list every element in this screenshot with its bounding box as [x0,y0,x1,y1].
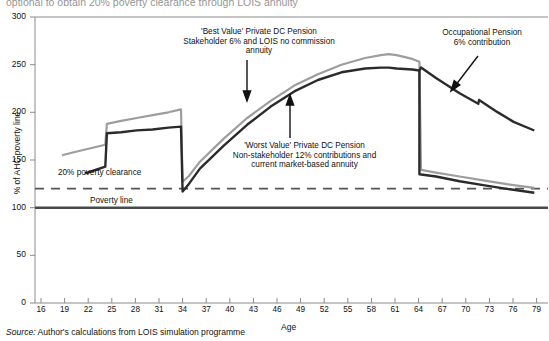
label-poverty-clearance: 20% poverty clearance [58,168,141,177]
annotation-arrow-occupational [451,56,478,91]
annotation-arrow-worst-value [286,95,293,138]
x-tick-label: 52 [314,305,334,314]
x-tick-label: 46 [267,305,287,314]
series-worst-value-retirement-branch [419,71,534,193]
x-tick-label: 16 [31,305,51,314]
x-tick-label: 70 [456,305,476,314]
x-tick-label: 79 [527,305,547,314]
annotation-best-value: 'Best Value' Private DC Pension Stakehol… [163,27,355,56]
x-tick-label: 73 [479,305,499,314]
x-tick-label: 61 [385,305,405,314]
x-tick-label: 40 [220,305,240,314]
x-tick-label: 28 [125,305,145,314]
x-tick-marks [41,298,537,303]
x-tick-label: 22 [78,305,98,314]
x-tick-label: 49 [291,305,311,314]
source-body: Author's calculations from LOIS simulati… [36,327,245,337]
x-axis-title: Age [281,322,296,332]
source-label: Source: [6,327,36,337]
source-note: Source: Author's calculations from LOIS … [6,327,245,337]
y-tick-label: 200 [0,106,26,116]
y-tick-label: 0 [0,297,26,307]
y-tick-label: 100 [0,202,26,212]
annotation-arrow-best-value [243,60,250,101]
label-poverty-line: Poverty line [90,196,133,205]
series-worst-value-line [85,68,534,192]
x-tick-label: 25 [102,305,122,314]
annotation-occupational-pension: Occupational Pension 6% contribution [420,28,544,47]
annotation-worst-value: 'Worst Value' Private DC Pension Non-sta… [212,141,397,170]
y-tick-marks [30,17,35,303]
x-tick-label: 43 [243,305,263,314]
x-tick-label: 58 [361,305,381,314]
x-tick-label: 67 [432,305,452,314]
x-tick-label: 19 [55,305,75,314]
y-tick-label: 50 [0,249,26,259]
y-tick-label: 300 [0,11,26,21]
x-tick-label: 34 [173,305,193,314]
x-tick-label: 31 [149,305,169,314]
x-tick-label: 64 [409,305,429,314]
y-tick-label: 150 [0,154,26,164]
y-tick-label: 250 [0,59,26,69]
x-tick-label: 55 [338,305,358,314]
x-tick-label: 76 [503,305,523,314]
x-tick-label: 37 [196,305,216,314]
